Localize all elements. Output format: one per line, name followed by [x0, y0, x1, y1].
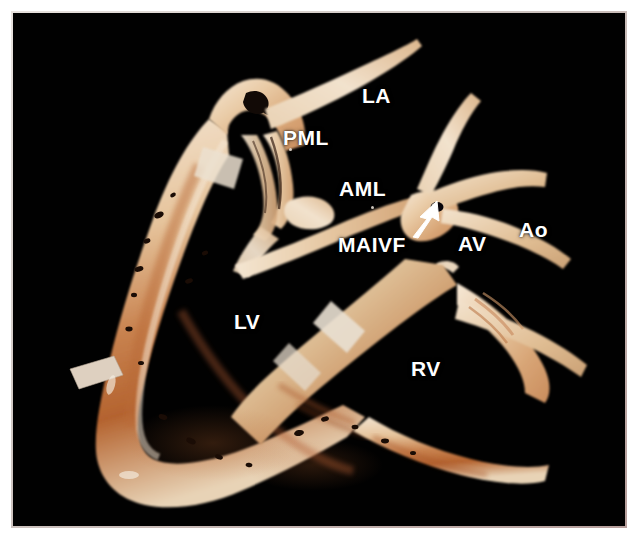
label-posterior-mitral-leaflet: PML: [283, 127, 329, 148]
label-left-atrium: LA: [362, 85, 391, 106]
figure-root: LA PML AML MAIVF AV Ao LV RV: [0, 0, 641, 538]
specimen-illustration: [13, 13, 625, 526]
label-aortic-valve: AV: [458, 233, 487, 254]
label-left-ventricle: LV: [234, 311, 260, 332]
label-aorta: Ao: [519, 219, 548, 240]
maivf-arrow-icon: [411, 199, 445, 239]
label-right-ventricle: RV: [411, 358, 441, 379]
specimen-photograph: LA PML AML MAIVF AV Ao LV RV: [13, 13, 625, 526]
marker-dot-aml: [371, 206, 374, 209]
label-mitral-aortic-intervalvular-fibrosa: MAIVF: [338, 234, 406, 255]
label-anterior-mitral-leaflet: AML: [339, 178, 386, 199]
